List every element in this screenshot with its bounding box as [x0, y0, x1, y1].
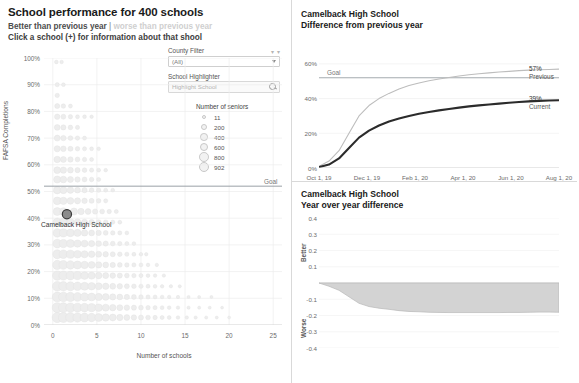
- legend-separator: |: [109, 22, 111, 31]
- sort-icon[interactable]: ▾: [271, 48, 274, 55]
- scatter-goal-label: Goal: [264, 178, 278, 185]
- line-chart-subtitle: Difference from previous year: [301, 20, 423, 30]
- scatter-x-tick: 15: [172, 332, 198, 339]
- county-filter-header: County Filter ▾ ▾: [168, 47, 280, 56]
- previous-series-label: Previous: [529, 73, 554, 80]
- line-goal-label: Goal: [327, 69, 341, 76]
- line-x-tick: Dec 1, 19: [347, 174, 387, 181]
- area-y-tick: -0.1: [293, 296, 317, 303]
- line-x-tick: Jun 1, 20: [491, 174, 531, 181]
- line-y-tick: 60%: [293, 60, 317, 67]
- scatter-y-axis-title: FAFSA Completions: [2, 101, 9, 160]
- scatter-y-tick: 40%: [14, 215, 40, 222]
- scatter-y-tick: 50%: [14, 188, 40, 195]
- area-chart-title: Camelback High School: [301, 189, 399, 199]
- scatter-panel: School performance for 400 schools Bette…: [0, 0, 292, 383]
- county-filter-label: County Filter: [168, 47, 204, 54]
- filter-header-icons: ▾ ▾: [271, 48, 280, 55]
- line-y-tick: 0%: [293, 165, 317, 172]
- selected-school-label: Camelback High School: [41, 221, 111, 228]
- scatter-x-tick: 20: [216, 332, 242, 339]
- scatter-y-tick: 100%: [14, 55, 40, 62]
- detail-panel: Camelback High School Difference from pr…: [292, 0, 576, 383]
- line-chart-title: Camelback High School: [301, 9, 399, 19]
- current-series-label: Current: [529, 103, 550, 110]
- scatter-y-tick: 30%: [14, 241, 40, 248]
- scatter-x-axis-title: Number of schools: [104, 352, 224, 359]
- line-y-tick: 40%: [293, 95, 317, 102]
- scatter-x-tick: 10: [128, 332, 154, 339]
- legend-subtitle: Better than previous year | worse than p…: [8, 22, 212, 31]
- line-x-tick: Feb 1, 20: [395, 174, 435, 181]
- line-x-tick: Apr 1, 20: [443, 174, 483, 181]
- scatter-y-tick: 10%: [14, 295, 40, 302]
- area-y-tick: 0.4: [293, 215, 317, 222]
- scatter-x-tick: 5: [84, 332, 110, 339]
- scatter-y-tick: 90%: [14, 81, 40, 88]
- area-y-tick: -0.4: [293, 345, 317, 352]
- area-axis-worse-label: Worse: [300, 319, 307, 338]
- area-axis-better-label: Better: [300, 244, 307, 262]
- scatter-y-tick: 0%: [14, 322, 40, 329]
- scatter-x-tick: 25: [260, 332, 286, 339]
- more-options-icon[interactable]: ▾: [277, 48, 280, 55]
- area-y-tick: 0.3: [293, 231, 317, 238]
- legend-better-label: Better than previous year: [8, 22, 107, 31]
- area-chart[interactable]: [319, 218, 559, 348]
- page-title: School performance for 400 schools: [8, 6, 203, 18]
- line-y-tick: 20%: [293, 130, 317, 137]
- panel-divider-horizontal: [292, 181, 577, 182]
- scatter-x-tick: 0: [40, 332, 66, 339]
- scatter-y-tick: 70%: [14, 135, 40, 142]
- scatter-y-tick: 20%: [14, 268, 40, 275]
- current-value-label: 39%: [529, 95, 542, 102]
- legend-worse-label: worse than previous year: [113, 22, 212, 31]
- area-chart-subtitle: Year over year difference: [301, 200, 403, 210]
- scatter-y-tick: 80%: [14, 108, 40, 115]
- instruction-text: Click a school (+) for information about…: [8, 33, 202, 42]
- line-x-tick: Aug 1, 20: [539, 174, 579, 181]
- previous-value-label: 57%: [529, 65, 542, 72]
- line-x-tick: Oct 1, 19: [299, 174, 339, 181]
- line-chart[interactable]: [319, 50, 559, 168]
- area-y-tick: 0.1: [293, 263, 317, 270]
- scatter-plot[interactable]: [44, 58, 282, 325]
- scatter-y-tick: 60%: [14, 161, 40, 168]
